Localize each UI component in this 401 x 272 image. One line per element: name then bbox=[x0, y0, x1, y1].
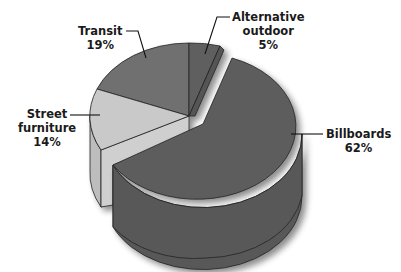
label-street-name-2: furniture bbox=[18, 121, 76, 135]
label-transit-value: 19% bbox=[78, 38, 122, 52]
label-billboards: Billboards 62% bbox=[326, 127, 391, 155]
label-transit: Transit 19% bbox=[78, 24, 122, 52]
label-billboards-value: 62% bbox=[326, 141, 391, 155]
label-billboards-name: Billboards bbox=[326, 127, 391, 141]
label-street-furniture: Street furniture 14% bbox=[18, 107, 76, 149]
label-alternative-outdoor: Alternative outdoor 5% bbox=[232, 10, 305, 52]
label-street-name-1: Street bbox=[18, 107, 76, 121]
label-alt-name-2: outdoor bbox=[232, 24, 305, 38]
label-street-value: 14% bbox=[18, 135, 76, 149]
label-alt-name-1: Alternative bbox=[232, 10, 305, 24]
label-transit-name: Transit bbox=[78, 24, 122, 38]
label-alt-value: 5% bbox=[232, 38, 305, 52]
